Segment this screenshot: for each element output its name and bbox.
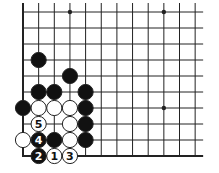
white-stone-icon xyxy=(62,100,77,115)
move-number-label: 2 xyxy=(35,150,43,163)
black-stone xyxy=(62,68,77,83)
black-stone-icon xyxy=(47,132,62,147)
black-stone-icon xyxy=(31,84,46,99)
white-stone-move-1: 1 xyxy=(47,148,62,163)
white-stone-icon xyxy=(62,116,77,131)
white-stone-icon xyxy=(62,132,77,147)
black-stone-icon xyxy=(78,116,93,131)
black-stone-icon xyxy=(78,100,93,115)
black-stone-icon xyxy=(31,52,46,67)
black-stone xyxy=(78,100,93,115)
white-stone-icon xyxy=(47,100,62,115)
black-stone xyxy=(31,84,46,99)
white-stone xyxy=(62,132,77,147)
black-stone xyxy=(15,100,30,115)
black-stone xyxy=(78,116,93,131)
move-number-label: 4 xyxy=(35,134,43,147)
black-stone-icon xyxy=(15,100,30,115)
white-stone xyxy=(62,116,77,131)
black-stone-move-4: 4 xyxy=(31,132,46,147)
black-stone xyxy=(78,84,93,99)
black-stone-move-2: 2 xyxy=(31,148,46,163)
black-stone xyxy=(31,52,46,67)
black-stone xyxy=(47,84,62,99)
move-number-label: 1 xyxy=(50,150,58,163)
black-stone xyxy=(47,132,62,147)
black-stone-icon xyxy=(78,132,93,147)
white-stone-icon xyxy=(31,100,46,115)
black-stone xyxy=(78,132,93,147)
move-number-label: 5 xyxy=(35,118,43,131)
move-number-label: 3 xyxy=(66,150,74,163)
black-stone-icon xyxy=(47,84,62,99)
white-stone xyxy=(31,100,46,115)
white-stone-move-5: 5 xyxy=(31,116,46,131)
white-stone-icon xyxy=(15,132,30,147)
white-stone-move-3: 3 xyxy=(62,148,77,163)
black-stone-icon xyxy=(62,68,77,83)
star-point-icon xyxy=(162,106,166,110)
star-point-icon xyxy=(68,10,72,14)
white-stone xyxy=(62,100,77,115)
star-point-icon xyxy=(162,10,166,14)
white-stone xyxy=(15,132,30,147)
white-stone xyxy=(47,100,62,115)
black-stone-icon xyxy=(78,84,93,99)
go-board: 54213 xyxy=(0,0,219,173)
